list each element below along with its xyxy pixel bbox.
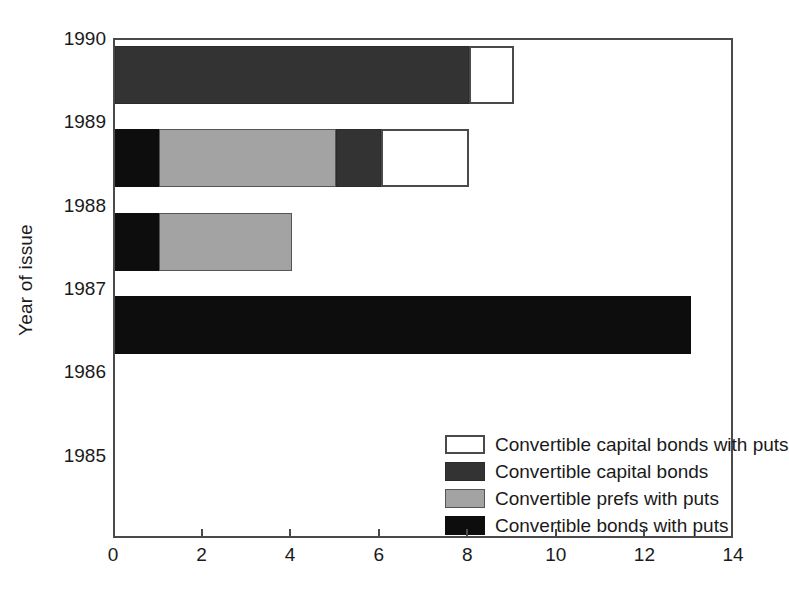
x-tick-12: 12 — [622, 545, 666, 564]
legend-item: Convertible capital bonds with puts — [445, 432, 789, 456]
legend-item: Convertible prefs with puts — [445, 486, 789, 510]
x-tick-10: 10 — [534, 545, 578, 564]
bar-segment — [469, 46, 513, 104]
legend-swatch-black — [445, 516, 485, 535]
y-axis-title-text: Year of issue — [15, 224, 37, 336]
x-tick-mark-10 — [555, 529, 557, 538]
bar-segment — [381, 129, 470, 187]
x-tick-0: 0 — [91, 545, 135, 564]
y-tick-1986: 1986 — [40, 362, 106, 381]
bar-segment — [115, 46, 469, 104]
bar-segment — [115, 296, 691, 354]
bar-group-1989 — [115, 129, 735, 187]
x-tick-2: 2 — [180, 545, 224, 564]
x-tick-mark-2 — [201, 529, 203, 538]
bar-segment — [159, 129, 336, 187]
legend-label: Convertible bonds with puts — [495, 516, 728, 535]
x-tick-mark-4 — [289, 529, 291, 538]
legend-label: Convertible capital bonds with puts — [495, 435, 789, 454]
y-tick-1988: 1988 — [40, 196, 106, 215]
y-tick-1987: 1987 — [40, 279, 106, 298]
bar-segment — [159, 213, 292, 271]
x-tick-mark-12 — [643, 529, 645, 538]
y-tick-1985: 1985 — [40, 446, 106, 465]
x-tick-6: 6 — [357, 545, 401, 564]
legend-item: Convertible capital bonds — [445, 459, 789, 483]
legend-swatch-white — [445, 435, 485, 454]
legend-label: Convertible capital bonds — [495, 462, 708, 481]
x-tick-mark-6 — [378, 529, 380, 538]
legend-swatch-darkgrey — [445, 462, 485, 481]
x-tick-14: 14 — [711, 545, 755, 564]
bar-group-1988 — [115, 213, 735, 271]
plot-area: Convertible capital bonds with putsConve… — [113, 38, 733, 538]
bar-segment — [336, 129, 380, 187]
bar-group-1990 — [115, 46, 735, 104]
legend-label: Convertible prefs with puts — [495, 489, 719, 508]
chart-legend: Convertible capital bonds with putsConve… — [445, 432, 789, 537]
x-tick-4: 4 — [268, 545, 312, 564]
y-tick-1990: 1990 — [40, 29, 106, 48]
bar-group-1987 — [115, 296, 735, 354]
legend-item: Convertible bonds with puts — [445, 513, 789, 537]
x-tick-mark-8 — [466, 529, 468, 538]
x-tick-8: 8 — [445, 545, 489, 564]
y-tick-1989: 1989 — [40, 112, 106, 131]
bar-segment — [115, 129, 159, 187]
bar-segment — [115, 213, 159, 271]
legend-swatch-grey — [445, 489, 485, 508]
